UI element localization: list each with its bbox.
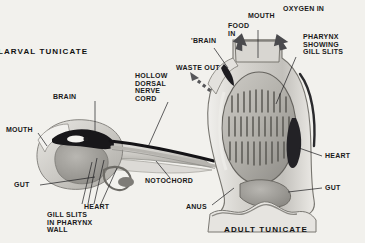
- label-notochord: NOTOCHORD: [145, 177, 193, 185]
- label-waste-out: WASTE OUT: [176, 64, 220, 72]
- caption-adult-tunicate: ADULT TUNICATE: [224, 225, 308, 234]
- label-oxygen-in: OXYGEN IN: [283, 5, 324, 13]
- label-larva-mouth: MOUTH: [6, 126, 33, 134]
- larva-brain-vesicle: [67, 135, 85, 142]
- figure-canvas: LARVAL TUNICATE ADULT TUNICATE BRAIN MOU…: [0, 0, 365, 243]
- label-hollow-dorsal-nerve-cord: HOLLOW DORSAL NERVE CORD: [135, 72, 168, 102]
- label-pharynx-gill-slits: PHARYNX SHOWING GILL SLITS: [303, 33, 343, 56]
- label-adult-heart: HEART: [325, 152, 350, 160]
- larva-gut-mass: [118, 177, 134, 187]
- label-larva-brain: BRAIN: [53, 93, 76, 101]
- label-adult-mouth: MOUTH: [248, 12, 275, 20]
- label-food-in: FOOD IN: [228, 22, 249, 37]
- label-adult-gut: GUT: [325, 184, 341, 192]
- label-adult-brain: 'BRAIN: [191, 37, 216, 45]
- label-anus: ANUS: [186, 203, 207, 211]
- label-larva-gut: GUT: [14, 181, 30, 189]
- larva-ocellus: [83, 137, 88, 141]
- label-larva-heart: HEART: [84, 203, 109, 211]
- label-larva-gill-slits: GILL SLITS IN PHARYNX WALL: [47, 211, 92, 234]
- caption-larval-tunicate: LARVAL TUNICATE: [0, 47, 88, 56]
